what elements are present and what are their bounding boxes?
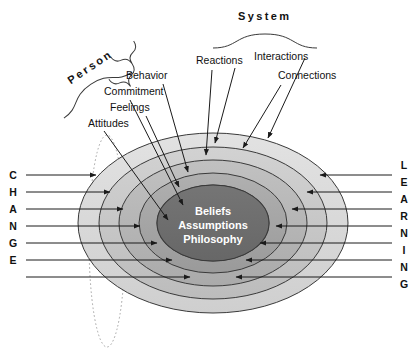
label-attitudes: Attitudes <box>88 117 129 129</box>
svg-text:L: L <box>401 159 408 171</box>
svg-text:Beliefs: Beliefs <box>195 205 231 217</box>
label-feelings: Feelings <box>110 101 150 113</box>
svg-text:E: E <box>400 176 407 188</box>
svg-text:G: G <box>9 237 17 249</box>
svg-text:I: I <box>403 244 406 256</box>
svg-text:Assumptions: Assumptions <box>178 219 248 231</box>
diagram-canvas: Person System Behavior Commitment Feelin… <box>0 0 419 355</box>
svg-text:E: E <box>9 254 16 266</box>
label-connections: Connections <box>278 69 336 81</box>
svg-text:N: N <box>400 227 408 239</box>
system-group-label: System <box>238 10 292 22</box>
label-reactions: Reactions <box>196 54 243 66</box>
svg-text:H: H <box>9 186 17 198</box>
svg-text:N: N <box>9 220 17 232</box>
svg-text:Philosophy: Philosophy <box>183 233 243 245</box>
label-interactions: Interactions <box>254 50 308 62</box>
svg-text:A: A <box>400 193 408 205</box>
svg-text:R: R <box>400 210 408 222</box>
label-behavior: Behavior <box>126 69 168 81</box>
svg-text:A: A <box>9 203 17 215</box>
svg-text:G: G <box>400 278 408 290</box>
svg-text:C: C <box>9 169 17 181</box>
label-commitment: Commitment <box>104 85 164 97</box>
svg-text:N: N <box>400 261 408 273</box>
